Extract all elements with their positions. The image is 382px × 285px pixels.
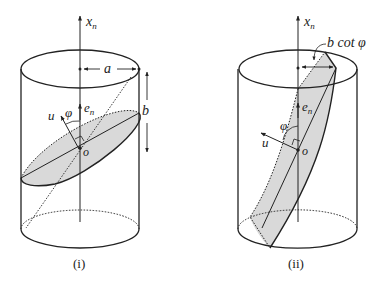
- origin-label: o: [302, 144, 308, 158]
- direction-label: u: [48, 108, 55, 123]
- cross-section-band: [250, 52, 336, 248]
- axis-label: xn: [303, 14, 315, 31]
- caption-ii: (ii): [288, 256, 304, 271]
- panel-ii: xn b cot φ en u φ o (ii): [238, 14, 366, 271]
- angle-label: φ: [280, 118, 287, 133]
- caption-i: (i): [73, 256, 85, 271]
- angle-label: φ: [65, 105, 72, 120]
- axis-label: xn: [85, 14, 97, 31]
- height-label: b: [142, 103, 149, 118]
- direction-label: u: [262, 135, 269, 150]
- offset-label: b cot φ: [327, 35, 366, 50]
- origin-label: o: [83, 145, 89, 159]
- figure-canvas: xn a b en u φ o (i): [0, 0, 382, 285]
- radius-label: a: [104, 61, 111, 76]
- panel-i: xn a b en u φ o (i): [21, 14, 149, 271]
- normal-label: en: [84, 100, 95, 117]
